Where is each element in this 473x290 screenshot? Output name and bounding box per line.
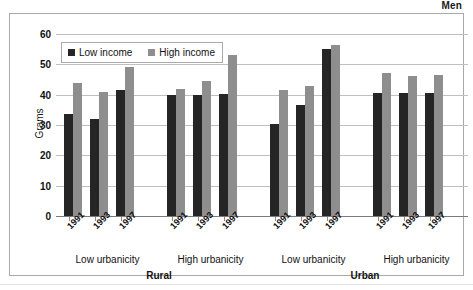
legend-item-high-income: High income xyxy=(148,47,215,58)
y-tick-label: 0 xyxy=(45,211,51,222)
bar-low-income xyxy=(270,124,279,216)
bar-low-income xyxy=(425,93,434,216)
y-tick-label: 60 xyxy=(40,29,51,40)
plot-frame: Grams 0102030405060 19911993199719911993… xyxy=(9,13,464,276)
y-tick-label: 50 xyxy=(40,59,51,70)
bar-low-income xyxy=(64,114,73,216)
page-artifact-line xyxy=(0,284,473,285)
urbanicity-label: High urbanicity xyxy=(372,254,462,265)
legend-swatch-high-income-icon xyxy=(148,49,155,56)
bar-high-income xyxy=(331,45,340,216)
bar-high-income xyxy=(73,83,82,216)
urbanicity-label: High urbanicity xyxy=(166,254,256,265)
chart-container: Men Grams 0102030405060 1991199319971991… xyxy=(0,0,473,290)
y-tick-label: 40 xyxy=(40,89,51,100)
bar-low-income xyxy=(322,49,331,216)
area-label: Urban xyxy=(325,270,405,281)
legend-swatch-low-income-icon xyxy=(68,49,75,56)
legend-item-low-income: Low income xyxy=(68,47,132,58)
bar-low-income xyxy=(90,119,99,216)
bar-high-income xyxy=(99,92,108,216)
y-tick-label: 10 xyxy=(40,180,51,191)
bar-high-income xyxy=(408,76,417,216)
y-tick-label: 30 xyxy=(40,120,51,131)
bar-low-income xyxy=(167,95,176,216)
urbanicity-label: Low urbanicity xyxy=(269,254,359,265)
bar-high-income xyxy=(125,67,134,216)
legend-label-low-income: Low income xyxy=(79,47,132,58)
bar-high-income xyxy=(305,86,314,216)
bar-low-income xyxy=(193,95,202,216)
bar-high-income xyxy=(382,73,391,216)
bar-high-income xyxy=(176,89,185,216)
chart-legend: Low income High income xyxy=(61,42,223,63)
legend-label-high-income: High income xyxy=(159,47,215,58)
area-label: Rural xyxy=(119,270,199,281)
bar-low-income xyxy=(296,105,305,216)
bar-high-income xyxy=(228,55,237,216)
bar-low-income xyxy=(399,93,408,216)
bar-high-income xyxy=(279,90,288,216)
chart-title: Men xyxy=(441,0,462,11)
bar-high-income xyxy=(202,81,211,216)
bar-high-income xyxy=(434,75,443,216)
urbanicity-label: Low urbanicity xyxy=(63,254,153,265)
bar-low-income xyxy=(219,94,228,216)
y-tick-label: 20 xyxy=(40,150,51,161)
bar-low-income xyxy=(116,90,125,216)
bar-low-income xyxy=(373,93,382,216)
